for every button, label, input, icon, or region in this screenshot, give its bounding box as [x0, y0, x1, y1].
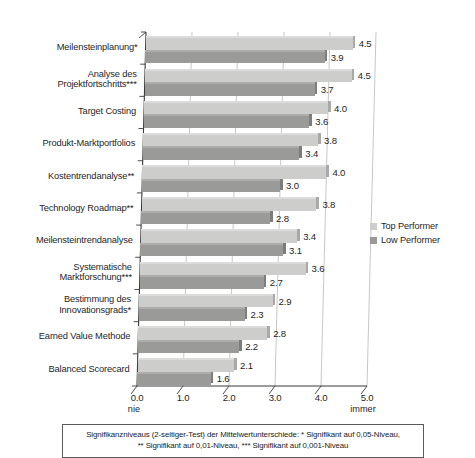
category-label: Earned Value Methode: [0, 331, 130, 342]
bar-value-label: 3.6: [315, 116, 328, 127]
scale-anchor-high: immer: [337, 404, 389, 414]
bar-end-cap: [309, 114, 312, 126]
bar-top-performer: [143, 135, 318, 147]
bar-end-cap: [264, 275, 267, 287]
bar-face: [142, 181, 280, 193]
bar-end-cap: [245, 307, 248, 319]
bar-end-cap: [283, 243, 286, 255]
bar-face: [140, 264, 306, 276]
bar-top-performer: [138, 360, 235, 372]
bar-value-label: 2.3: [251, 309, 264, 320]
bar-top-edge: [140, 243, 283, 245]
bar-face: [141, 213, 270, 225]
bar-low-performer: [143, 148, 299, 160]
bar-value-label: 2.7: [270, 277, 283, 288]
category-label: Meilensteintrendanalyse: [3, 235, 133, 246]
bar-face: [142, 167, 326, 179]
category-label: Bestimmung des Innovationsgrads*: [1, 294, 131, 315]
bar-end-cap: [273, 294, 276, 306]
bar-face: [144, 116, 310, 128]
legend-swatch: [370, 223, 377, 230]
bar-low-performer: [141, 213, 270, 225]
bar-end-cap: [239, 340, 242, 352]
bar-top-edge: [138, 326, 267, 328]
bar-face: [145, 52, 324, 64]
category-label: Technology Roadmap**: [4, 203, 134, 214]
bar-face: [139, 309, 245, 321]
bar-low-performer: [142, 181, 280, 193]
bar-end-cap: [315, 82, 318, 94]
bar-top-performer: [144, 103, 328, 115]
legend-item: Low Performer: [370, 235, 440, 245]
bar-top-edge: [143, 133, 318, 135]
bar-value-label: 2.9: [279, 296, 292, 307]
bar-face: [139, 296, 272, 308]
bar-value-label: 3.8: [324, 135, 337, 146]
bar-face: [145, 71, 352, 83]
bar-top-edge: [138, 358, 235, 360]
bar-end-cap: [267, 326, 270, 338]
scale-anchor-low: nie: [108, 404, 160, 414]
bar-top-edge: [143, 146, 299, 148]
bar-top-edge: [137, 372, 211, 374]
bar-value-label: 4.0: [334, 103, 347, 114]
bar-value-label: 3.9: [331, 52, 344, 63]
bar-face: [141, 231, 297, 243]
bar-value-label: 3.8: [322, 199, 335, 210]
bar-low-performer: [145, 52, 324, 64]
bar-value-label: 2.1: [240, 360, 253, 371]
bar-top-performer: [142, 167, 326, 179]
bar-top-edge: [142, 165, 326, 167]
bar-top-edge: [140, 275, 264, 277]
bar-value-label: 3.6: [312, 263, 325, 274]
bar-face: [138, 328, 267, 340]
bar-top-edge: [140, 262, 306, 264]
bar-end-cap: [280, 179, 283, 191]
bar-end-cap: [306, 262, 309, 274]
footnote-line-2: ** Signifikant auf 0,01-Niveau, *** Sign…: [69, 441, 417, 452]
bar-top-performer: [145, 71, 352, 83]
bar-top-performer: [146, 38, 353, 50]
bar-top-edge: [141, 211, 270, 213]
category-label: Target Costing: [6, 106, 136, 117]
x-axis-tick-label: 0.0: [113, 392, 161, 403]
bar-low-performer: [138, 342, 239, 354]
bar-value-label: 2.8: [273, 328, 286, 339]
bar-end-cap: [328, 101, 331, 113]
bar-low-performer: [140, 277, 264, 289]
bar-value-label: 2.8: [276, 213, 289, 224]
bar-value-label: 4.5: [358, 70, 371, 81]
bar-low-performer: [145, 84, 315, 96]
category-label: Produkt-Marktportfolios: [5, 138, 135, 149]
bar-value-label: 3.0: [286, 180, 299, 191]
bar-end-cap: [326, 165, 329, 177]
category-label: Meilensteinplanung*: [8, 42, 138, 53]
bar-top-edge: [139, 294, 272, 296]
bar-end-cap: [353, 36, 356, 48]
bar-face: [146, 38, 353, 50]
bar-low-performer: [137, 374, 211, 386]
bar-face: [138, 342, 239, 354]
bar-top-edge: [145, 69, 352, 71]
category-label: Analyse des Projektfortschritts***: [7, 69, 137, 90]
bar-top-performer: [142, 199, 317, 211]
footnote-box: Signifikanzniveaus (2-seitiger-Test) der…: [62, 424, 424, 458]
bar-top-edge: [141, 229, 297, 231]
bar-face: [137, 374, 211, 386]
bar-end-cap: [316, 197, 319, 209]
bar-top-edge: [144, 114, 310, 116]
bar-value-label: 3.4: [305, 148, 318, 159]
bar-face: [140, 245, 283, 257]
bar-value-label: 2.2: [245, 341, 258, 352]
bar-face: [140, 277, 264, 289]
bar-top-performer: [140, 264, 306, 276]
x-axis-tick-label: 5.0: [343, 392, 391, 403]
bar-top-edge: [139, 307, 245, 309]
bar-top-edge: [145, 50, 324, 52]
x-axis-tick-label: 2.0: [205, 392, 253, 403]
bar-end-cap: [211, 372, 214, 384]
bar-value-label: 3.4: [303, 231, 316, 242]
bar-end-cap: [297, 229, 300, 241]
category-label: Kostentrendanalyse**: [4, 171, 134, 182]
